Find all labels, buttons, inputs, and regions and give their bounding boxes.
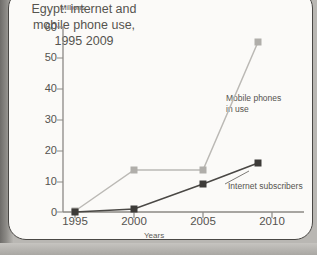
series-mobile-phones <box>72 39 262 215</box>
series-mobile-point-2009 <box>255 39 262 46</box>
page-edge-bottom <box>0 243 317 255</box>
series-internet-point-2009 <box>255 160 262 167</box>
plot-area <box>9 1 313 240</box>
scanned-page: Millions Egypt: internet and mobile phon… <box>0 0 317 255</box>
series-mobile-point-2000 <box>131 167 138 174</box>
series-internet-point-1995 <box>72 209 79 216</box>
figure-card: Millions Egypt: internet and mobile phon… <box>8 0 313 240</box>
figure-inner: Millions Egypt: internet and mobile phon… <box>9 1 313 240</box>
series-internet-subscribers <box>72 160 262 216</box>
series-mobile-point-2005 <box>200 167 207 174</box>
internet-label-leader-line <box>225 171 249 184</box>
axes <box>57 27 304 218</box>
series-internet-point-2005 <box>200 181 207 188</box>
series-mobile-line <box>75 42 258 211</box>
series-internet-point-2000 <box>131 206 138 213</box>
chart-svg <box>9 1 313 240</box>
